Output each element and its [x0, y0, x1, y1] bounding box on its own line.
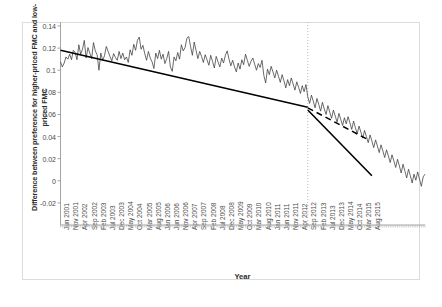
- chart-figure: Difference between preference for higher…: [0, 0, 442, 307]
- data-series: [61, 37, 426, 187]
- axis-lines: [61, 22, 426, 225]
- plot-canvas: [0, 0, 442, 307]
